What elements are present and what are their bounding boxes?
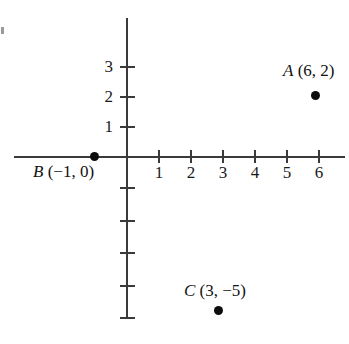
x-tick-2 <box>190 150 192 163</box>
point-label-b: B (−1, 0) <box>33 163 94 180</box>
y-tick-label-1: 1 <box>93 118 113 135</box>
x-tick-3 <box>222 150 224 163</box>
y-tick-neg-5 <box>120 317 135 319</box>
x-tick-1 <box>158 150 160 163</box>
y-tick-label-3: 3 <box>93 58 113 75</box>
x-tick-6 <box>318 150 320 163</box>
y-tick-neg-4 <box>120 285 135 287</box>
y-axis <box>126 18 128 319</box>
x-tick-label-5: 5 <box>277 164 297 181</box>
y-tick-2 <box>120 96 135 98</box>
point-a-coords: (6, 2) <box>298 61 335 80</box>
point-b-coords: (−1, 0) <box>48 162 94 181</box>
x-axis <box>14 156 345 158</box>
y-tick-neg-3 <box>120 252 135 254</box>
y-tick-3 <box>120 66 135 68</box>
scan-artifact-mark <box>1 27 4 34</box>
point-a-name: A <box>283 61 293 80</box>
point-label-a: A (6, 2) <box>283 62 334 79</box>
x-tick-label-6: 6 <box>309 164 329 181</box>
x-tick-label-2: 2 <box>181 164 201 181</box>
point-dot-a <box>311 91 320 100</box>
point-dot-c <box>214 306 223 315</box>
y-tick-1 <box>120 126 135 128</box>
point-label-c: C (3, −5) <box>184 282 246 299</box>
point-c-coords: (3, −5) <box>200 281 246 300</box>
x-tick-label-4: 4 <box>245 164 265 181</box>
x-tick-label-3: 3 <box>213 164 233 181</box>
point-dot-b <box>90 152 99 161</box>
point-b-name: B <box>33 162 43 181</box>
y-tick-label-2: 2 <box>93 88 113 105</box>
x-tick-label-1: 1 <box>149 164 169 181</box>
x-tick-4 <box>254 150 256 163</box>
coordinate-plane-figure: 1 2 3 4 5 6 3 2 1 A (6, 2) B (−1, 0) C (… <box>0 0 349 344</box>
y-tick-neg-2 <box>120 220 135 222</box>
x-tick-5 <box>286 150 288 163</box>
point-c-name: C <box>184 281 195 300</box>
y-tick-neg-1 <box>120 187 135 189</box>
